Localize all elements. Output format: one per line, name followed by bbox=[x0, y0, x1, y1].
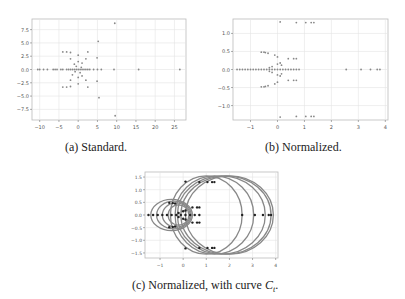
data-point bbox=[184, 214, 186, 216]
data-point bbox=[74, 71, 76, 73]
data-point bbox=[72, 74, 74, 76]
data-point bbox=[189, 214, 191, 216]
data-point bbox=[87, 51, 89, 53]
x-tick-label: 3 bbox=[357, 124, 360, 130]
y-tick-label: −0.5 bbox=[131, 226, 142, 231]
data-point bbox=[77, 54, 79, 56]
data-point bbox=[73, 69, 75, 71]
data-point bbox=[77, 83, 79, 85]
x-tick-label: 0 bbox=[276, 124, 279, 130]
data-point bbox=[293, 79, 295, 81]
data-point bbox=[73, 63, 75, 65]
data-point bbox=[62, 51, 64, 53]
data-point bbox=[244, 69, 246, 71]
data-point bbox=[39, 69, 41, 71]
data-point bbox=[75, 65, 77, 67]
data-point bbox=[170, 214, 172, 216]
data-point bbox=[56, 69, 58, 71]
data-point bbox=[62, 86, 64, 88]
data-point bbox=[100, 69, 102, 71]
data-point bbox=[196, 206, 198, 208]
data-point bbox=[87, 86, 89, 88]
data-point bbox=[174, 225, 176, 227]
data-point bbox=[213, 247, 215, 249]
data-point bbox=[293, 69, 295, 71]
data-point bbox=[97, 69, 99, 71]
data-point bbox=[113, 69, 115, 71]
subfigure-c: −101234−1.5−1.0−0.50.00.51.01.5 bbox=[128, 167, 283, 271]
data-point bbox=[277, 56, 279, 58]
data-point bbox=[184, 218, 186, 220]
data-point bbox=[114, 22, 116, 24]
data-point bbox=[277, 69, 279, 71]
data-point bbox=[206, 181, 208, 183]
y-tick-label: −2.5 bbox=[17, 80, 29, 86]
data-point bbox=[81, 62, 83, 64]
data-point bbox=[138, 69, 140, 71]
data-point bbox=[70, 52, 72, 54]
data-point bbox=[295, 69, 297, 71]
data-point bbox=[282, 69, 284, 71]
y-tick-label: 2.5 bbox=[21, 53, 29, 59]
y-tick-label: 1.5 bbox=[135, 175, 142, 180]
data-point bbox=[177, 216, 179, 218]
data-point bbox=[81, 69, 83, 71]
data-point bbox=[268, 214, 270, 216]
data-point bbox=[274, 69, 276, 71]
data-point bbox=[345, 69, 347, 71]
data-point bbox=[66, 86, 68, 88]
data-point bbox=[168, 202, 170, 204]
data-point bbox=[206, 247, 208, 249]
data-point bbox=[236, 69, 238, 71]
y-tick-label: 0.0 bbox=[135, 213, 142, 218]
data-point bbox=[157, 214, 159, 216]
data-point bbox=[279, 75, 281, 77]
data-point bbox=[77, 61, 79, 63]
x-tick-label: 25 bbox=[171, 124, 177, 130]
data-point bbox=[60, 69, 62, 71]
data-point bbox=[52, 69, 54, 71]
data-point bbox=[295, 115, 297, 117]
data-point bbox=[279, 21, 281, 23]
data-point bbox=[66, 51, 68, 53]
y-tick-label: 0.5 bbox=[222, 48, 230, 54]
data-point bbox=[305, 115, 307, 117]
data-point bbox=[376, 69, 378, 71]
data-point bbox=[270, 214, 272, 216]
data-point bbox=[310, 115, 312, 117]
data-point bbox=[260, 51, 262, 53]
data-point bbox=[168, 226, 170, 228]
data-point bbox=[161, 214, 163, 216]
data-point bbox=[68, 69, 70, 71]
data-point bbox=[72, 69, 74, 71]
data-point bbox=[281, 73, 283, 75]
data-point bbox=[277, 63, 279, 65]
data-point bbox=[298, 69, 300, 71]
y-tick-label: −7.5 bbox=[17, 106, 29, 112]
data-point bbox=[379, 69, 381, 71]
x-tick-label: 0 bbox=[182, 263, 185, 267]
data-point bbox=[305, 22, 307, 24]
x-tick-label: 15 bbox=[133, 124, 139, 130]
data-point bbox=[47, 69, 49, 71]
data-point bbox=[83, 69, 85, 71]
data-point bbox=[267, 52, 269, 54]
data-point bbox=[77, 69, 79, 71]
data-point bbox=[250, 69, 252, 71]
data-point bbox=[211, 247, 213, 249]
scatter-plot-normalized-with-curve: −101234−1.5−1.0−0.50.00.51.01.5 bbox=[128, 167, 283, 267]
data-point bbox=[241, 214, 243, 216]
data-point bbox=[172, 202, 174, 204]
data-point bbox=[252, 69, 254, 71]
data-point bbox=[271, 71, 273, 73]
data-point bbox=[258, 69, 260, 71]
data-point bbox=[239, 69, 241, 71]
y-tick-label: 1.0 bbox=[135, 188, 142, 193]
scatter-plot-standard: −10−50510152025−7.5−5.0−2.50.02.55.07.5 bbox=[8, 14, 193, 132]
data-point bbox=[166, 214, 168, 216]
data-point bbox=[85, 69, 87, 71]
x-tick-label: 2 bbox=[228, 263, 231, 267]
data-point bbox=[313, 22, 315, 24]
data-point bbox=[287, 58, 289, 60]
data-point bbox=[184, 180, 186, 182]
